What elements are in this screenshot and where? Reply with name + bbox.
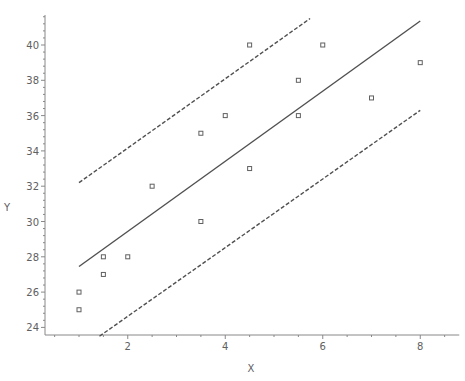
- data-point-marker: [199, 131, 203, 135]
- y-tick-label: 28: [26, 252, 39, 263]
- data-point-marker: [150, 184, 154, 188]
- data-point-marker: [248, 167, 252, 171]
- data-point-marker: [418, 61, 422, 65]
- data-point-marker: [296, 114, 300, 118]
- data-point-marker: [370, 96, 374, 100]
- scatter-chart: 2468242628303234363840 X Y: [0, 0, 465, 381]
- data-point-marker: [223, 114, 227, 118]
- confidence-band-line: [99, 110, 420, 336]
- data-point-marker: [101, 272, 105, 276]
- y-tick-label: 36: [26, 111, 39, 122]
- confidence-band-line: [79, 19, 310, 183]
- x-tick-label: 4: [222, 341, 228, 352]
- x-tick-label: 2: [125, 341, 131, 352]
- data-point-marker: [321, 43, 325, 47]
- data-point-marker: [126, 255, 130, 259]
- y-tick-label: 32: [26, 181, 39, 192]
- y-tick-label: 40: [26, 40, 39, 51]
- y-tick-label: 34: [26, 146, 39, 157]
- x-tick-label: 6: [320, 341, 326, 352]
- data-points: [77, 43, 422, 312]
- y-tick-label: 26: [26, 287, 39, 298]
- data-point-marker: [101, 255, 105, 259]
- data-point-marker: [199, 220, 203, 224]
- data-point-marker: [77, 308, 81, 312]
- data-point-marker: [248, 43, 252, 47]
- fit-lines: [79, 19, 420, 337]
- data-point-marker: [296, 78, 300, 82]
- y-tick-label: 24: [26, 322, 39, 333]
- y-axis-title: Y: [3, 202, 11, 213]
- data-point-marker: [77, 290, 81, 294]
- x-tick-label: 8: [417, 341, 423, 352]
- y-tick-label: 30: [26, 217, 39, 228]
- regression-line: [79, 21, 420, 267]
- x-axis-title: X: [248, 363, 255, 374]
- y-tick-label: 38: [26, 75, 39, 86]
